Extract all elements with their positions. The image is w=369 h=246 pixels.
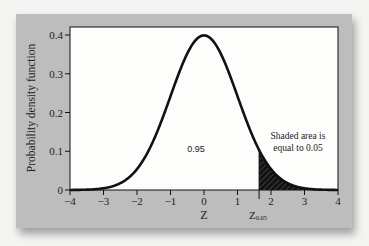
x-tick-label: −4 (64, 195, 76, 207)
y-axis-ticks: 00.10.20.30.4 (49, 29, 70, 196)
x-tick-label: −1 (165, 195, 177, 207)
shaded-note-line1: Shaded area is (271, 131, 326, 141)
x-axis-label: Z (200, 208, 207, 222)
x-tick-label: −2 (131, 195, 143, 207)
y-tick-label: 0 (58, 184, 64, 196)
x-tick-label: 0 (201, 195, 207, 207)
y-tick-label: 0.4 (49, 29, 63, 41)
x-tick-label: 4 (335, 195, 341, 207)
y-tick-label: 0.2 (49, 107, 63, 119)
y-tick-label: 0.1 (49, 145, 63, 157)
chart-svg: −4−3−2−101234 00.10.20.30.4 Z Probabilit… (0, 0, 369, 246)
critical-value-label: Z0.05 (249, 209, 267, 221)
plot-area (70, 27, 338, 190)
x-tick-label: 2 (268, 195, 274, 207)
x-tick-label: −3 (98, 195, 110, 207)
x-tick-label: 1 (235, 195, 241, 207)
y-axis-label: Probability density function (25, 44, 38, 173)
center-area-label: 0.95 (187, 144, 205, 154)
shaded-note-line2: equal to 0.05 (273, 143, 323, 153)
x-axis-ticks: −4−3−2−101234 (64, 190, 341, 207)
x-tick-label: 3 (302, 195, 308, 207)
y-tick-label: 0.3 (49, 68, 63, 80)
